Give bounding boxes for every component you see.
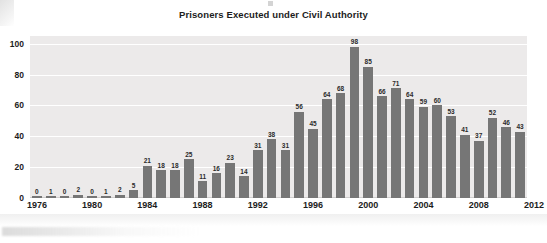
bar-value-label: 71 [392,80,399,87]
bar-1995[interactable]: 56 [294,36,304,198]
bar-rect [515,132,525,198]
bar-1990[interactable]: 23 [225,36,235,198]
bar-rect [156,170,166,198]
bar-value-label: 25 [185,151,192,158]
bar-1981[interactable]: 1 [101,36,111,198]
bar-rect [184,159,194,198]
bar-1988[interactable]: 11 [198,36,208,198]
bar-rect [46,196,56,198]
bar-value-label: 43 [516,123,523,130]
bar-value-label: 31 [282,142,289,149]
bar-1996[interactable]: 45 [308,36,318,198]
bar-1980[interactable]: 0 [87,36,97,198]
bar-1976[interactable]: 0 [32,36,42,198]
bar-rect [101,196,111,198]
bar-1978[interactable]: 0 [60,36,70,198]
scan-artifact-smudge [2,227,202,236]
bar-value-label: 1 [104,188,108,195]
bar-2003[interactable]: 64 [405,36,415,198]
bar-2002[interactable]: 71 [391,36,401,198]
bar-value-label: 23 [227,154,234,161]
bar-1999[interactable]: 98 [350,36,360,198]
bar-rect [474,141,484,198]
bar-1984[interactable]: 21 [143,36,153,198]
bar-value-label: 41 [461,126,468,133]
bars-layer: 0102012521181825111623143138315645646898… [30,36,527,198]
bar-1993[interactable]: 38 [267,36,277,198]
bar-value-label: 53 [447,108,454,115]
bar-rect [350,47,360,198]
bar-value-label: 98 [351,38,358,45]
bar-2008[interactable]: 37 [474,36,484,198]
y-axis-tick-label: 40 [0,131,24,141]
bar-1989[interactable]: 16 [212,36,222,198]
bar-value-label: 31 [254,142,261,149]
bar-rect [363,67,373,198]
bar-rect [32,196,42,198]
bar-value-label: 1 [49,188,53,195]
bar-value-label: 5 [132,182,136,189]
x-axis-tick-label: 1996 [303,200,323,210]
bar-value-label: 37 [475,132,482,139]
bar-1994[interactable]: 31 [281,36,291,198]
bar-rect [212,173,222,198]
bar-value-label: 0 [90,188,94,195]
y-axis-tick-label: 20 [0,162,24,172]
bar-value-label: 45 [309,120,316,127]
x-axis-tick-label: 2012 [524,200,544,210]
bar-value-label: 38 [268,131,275,138]
bar-1982[interactable]: 2 [115,36,125,198]
scan-artifact-tick [268,1,273,6]
bar-2006[interactable]: 53 [446,36,456,198]
bar-1992[interactable]: 31 [253,36,263,198]
bar-2009[interactable]: 52 [488,36,498,198]
bar-rect [377,96,387,198]
bar-rect [170,170,180,198]
bar-1986[interactable]: 18 [170,36,180,198]
bar-value-label: 52 [489,109,496,116]
bar-rect [129,190,139,198]
bar-rect [294,112,304,198]
bar-value-label: 0 [63,188,67,195]
bar-value-label: 0 [35,188,39,195]
bar-2001[interactable]: 66 [377,36,387,198]
bar-1991[interactable]: 14 [239,36,249,198]
x-axis-tick-label: 2004 [413,200,433,210]
bar-1985[interactable]: 18 [156,36,166,198]
bar-2007[interactable]: 41 [460,36,470,198]
x-axis-tick-label: 2000 [358,200,378,210]
bar-rect [267,139,277,198]
bar-1979[interactable]: 2 [73,36,83,198]
bar-1987[interactable]: 25 [184,36,194,198]
bar-2011[interactable]: 43 [515,36,525,198]
y-axis-tick-label: 80 [0,70,24,80]
bar-value-label: 68 [337,85,344,92]
bar-value-label: 64 [406,91,413,98]
bar-2004[interactable]: 59 [419,36,429,198]
bar-value-label: 64 [323,91,330,98]
bar-rect [446,116,456,198]
bar-2005[interactable]: 60 [432,36,442,198]
x-axis-tick-label: 1992 [248,200,268,210]
bar-2000[interactable]: 85 [363,36,373,198]
bar-value-label: 60 [434,97,441,104]
bar-1998[interactable]: 68 [336,36,346,198]
bar-rect [405,99,415,198]
bar-2010[interactable]: 46 [501,36,511,198]
x-axis-tick-label: 1988 [193,200,213,210]
bar-value-label: 56 [296,103,303,110]
bar-rect [143,166,153,198]
bar-1977[interactable]: 1 [46,36,56,198]
y-axis-tick-label: 100 [0,39,24,49]
bar-1983[interactable]: 5 [129,36,139,198]
x-axis-tick-label: 1976 [27,200,47,210]
bar-rect [419,107,429,198]
bar-1997[interactable]: 64 [322,36,332,198]
bar-rect [239,176,249,198]
y-axis-tick-label: 60 [0,100,24,110]
bar-value-label: 18 [158,162,165,169]
bar-value-label: 2 [77,186,81,193]
bar-rect [432,105,442,198]
bar-value-label: 59 [420,98,427,105]
bar-value-label: 14 [240,168,247,175]
